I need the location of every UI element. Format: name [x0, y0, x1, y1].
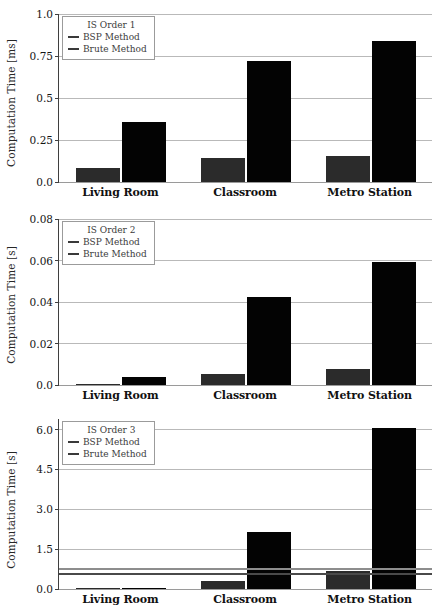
legend-line-swatch-brute-icon: [68, 253, 79, 255]
y-tick-mark: [55, 589, 59, 590]
legend-label-bsp: BSP Method: [83, 236, 140, 248]
y-axis-label-text: Computation Time [s]: [5, 246, 17, 364]
legend-line-swatch-brute-icon: [68, 48, 79, 50]
x-tick-label-metro-station: Metro Station: [327, 593, 412, 606]
bar-bsp-living-room: [76, 588, 120, 590]
legend-label-brute: Brute Method: [83, 248, 147, 260]
legend-line-swatch-bsp-icon: [68, 441, 79, 443]
y-tick-label: 0.0: [36, 379, 53, 391]
y-tick-label: 4.5: [36, 463, 53, 475]
legend-item-bsp: BSP Method: [68, 31, 147, 43]
chart-panel-is-order-2: Computation Time [s] 0.00.020.040.060.08…: [0, 205, 434, 405]
chart-panel-is-order-1: Computation Time [ms] 0.00.250.50.751.0 …: [0, 0, 434, 205]
x-tick-label-metro-station: Metro Station: [327, 186, 412, 199]
x-tick-label-living-room: Living Room: [82, 186, 158, 199]
y-tick-label: 0.75: [30, 50, 53, 62]
bar-brute-metro-station: [372, 262, 416, 385]
legend-item-bsp: BSP Method: [68, 236, 147, 248]
y-tick-mark: [55, 549, 59, 550]
y-tick-mark: [55, 469, 59, 470]
y-axis-label-panel-3: Computation Time [s]: [0, 405, 22, 615]
y-tick-label: 0.25: [30, 134, 53, 146]
y-tick-label: 6.0: [36, 424, 53, 436]
y-tick-mark: [55, 429, 59, 430]
legend-title: IS Order 3: [68, 425, 147, 436]
bar-bsp-living-room: [76, 384, 120, 386]
y-tick-mark: [55, 98, 59, 99]
legend-line-swatch-bsp-icon: [68, 241, 79, 243]
x-tick-label-living-room: Living Room: [82, 389, 158, 402]
legend-panel-2: IS Order 2 BSP Method Brute Method: [62, 221, 155, 265]
y-tick-mark: [55, 509, 59, 510]
y-tick-label: 0.0: [36, 176, 53, 188]
y-tick-labels-panel-1: 0.00.250.50.751.0: [20, 0, 56, 205]
chart-panel-is-order-3: Computation Time [s] 0.01.53.04.56.0 Liv…: [0, 405, 434, 615]
y-tick-mark: [55, 140, 59, 141]
legend-item-brute: Brute Method: [68, 448, 147, 460]
bar-bsp-classroom: [201, 374, 245, 385]
legend-item-brute: Brute Method: [68, 248, 147, 260]
y-tick-label: 0.06: [30, 255, 53, 267]
y-tick-mark: [55, 14, 59, 15]
legend-panel-1: IS Order 1 BSP Method Brute Method: [62, 16, 155, 60]
bar-bsp-metro-station: [326, 156, 370, 182]
y-tick-label: 0.0: [36, 583, 53, 595]
reference-line-bsp: [59, 573, 432, 575]
y-axis-label-text: Computation Time [ms]: [5, 39, 17, 167]
legend-label-bsp: BSP Method: [83, 31, 140, 43]
y-tick-label: 0.5: [36, 92, 53, 104]
bar-bsp-classroom: [201, 158, 245, 182]
legend-panel-3: IS Order 3 BSP Method Brute Method: [62, 421, 155, 465]
x-tick-label-metro-station: Metro Station: [327, 389, 412, 402]
legend-label-brute: Brute Method: [83, 43, 147, 55]
legend-item-brute: Brute Method: [68, 43, 147, 55]
y-tick-label: 1.0: [36, 8, 53, 20]
legend-title: IS Order 2: [68, 225, 147, 236]
bar-brute-metro-station: [372, 428, 416, 589]
y-tick-labels-panel-3: 0.01.53.04.56.0: [20, 405, 56, 615]
gridline: [59, 14, 432, 15]
legend-line-swatch-brute-icon: [68, 453, 79, 455]
x-tick-label-living-room: Living Room: [82, 593, 158, 606]
y-tick-mark: [55, 182, 59, 183]
reference-line-brute: [59, 568, 432, 570]
x-tick-label-classroom: Classroom: [213, 593, 277, 606]
y-tick-label: 0.04: [30, 296, 53, 308]
y-tick-mark: [55, 219, 59, 220]
legend-item-bsp: BSP Method: [68, 436, 147, 448]
bar-brute-classroom: [247, 532, 291, 589]
multi-panel-bar-chart-figure: Computation Time [ms] 0.00.250.50.751.0 …: [0, 0, 434, 615]
bar-brute-classroom: [247, 297, 291, 385]
bar-brute-living-room: [122, 122, 166, 182]
y-tick-label: 0.02: [30, 338, 53, 350]
y-axis-label-panel-2: Computation Time [s]: [0, 205, 22, 405]
y-tick-mark: [55, 56, 59, 57]
y-tick-label: 1.5: [36, 543, 53, 555]
bar-brute-living-room: [122, 377, 166, 385]
x-tick-label-classroom: Classroom: [213, 186, 277, 199]
y-tick-label: 3.0: [36, 503, 53, 515]
x-tick-label-classroom: Classroom: [213, 389, 277, 402]
bar-bsp-classroom: [201, 581, 245, 589]
legend-label-brute: Brute Method: [83, 448, 147, 460]
bar-brute-metro-station: [372, 41, 416, 182]
y-tick-mark: [55, 302, 59, 303]
bar-bsp-living-room: [76, 168, 120, 182]
bar-brute-classroom: [247, 61, 291, 182]
bar-bsp-metro-station: [326, 369, 370, 385]
y-tick-mark: [55, 385, 59, 386]
legend-title: IS Order 1: [68, 20, 147, 31]
legend-label-bsp: BSP Method: [83, 436, 140, 448]
gridline: [59, 219, 432, 220]
y-axis-label-text: Computation Time [s]: [5, 451, 17, 569]
y-tick-mark: [55, 260, 59, 261]
y-axis-label-panel-1: Computation Time [ms]: [0, 0, 22, 205]
y-tick-label: 0.08: [30, 213, 53, 225]
legend-line-swatch-bsp-icon: [68, 36, 79, 38]
y-tick-mark: [55, 343, 59, 344]
y-tick-labels-panel-2: 0.00.020.040.060.08: [20, 205, 56, 405]
bar-brute-living-room: [122, 588, 166, 590]
